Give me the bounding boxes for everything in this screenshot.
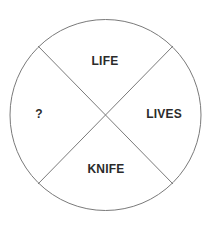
sector-label-right: LIVES: [146, 107, 182, 121]
sector-label-left: ?: [35, 107, 43, 121]
sector-label-bottom: KNIFE: [88, 162, 125, 176]
sector-label-top: LIFE: [92, 54, 119, 68]
